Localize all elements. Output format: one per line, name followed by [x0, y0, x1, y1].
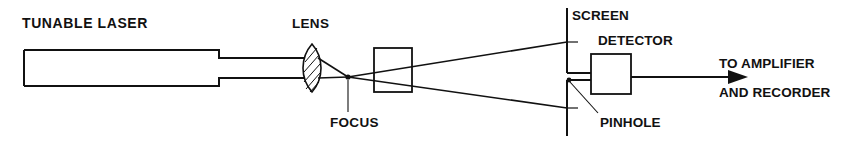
converging-beam	[318, 58, 348, 78]
output-destination-line1: TO AMPLIFIER	[719, 56, 815, 71]
screen-aperture	[567, 8, 591, 136]
output-destination-line2: AND RECORDER	[719, 85, 831, 100]
detector-box	[591, 54, 631, 94]
optical-setup-diagram: TUNABLE LASER LENS FOCUS	[0, 0, 846, 143]
focus-label: FOCUS	[330, 115, 379, 130]
screen-label: SCREEN	[572, 8, 629, 23]
diverging-beam	[348, 42, 567, 108]
tunable-laser-body	[24, 50, 305, 86]
tunable-laser-label: TUNABLE LASER	[22, 15, 148, 31]
optical-schematic-figure: TUNABLE LASER LENS FOCUS	[0, 0, 846, 143]
lens-element	[303, 44, 321, 92]
lens-label: LENS	[292, 16, 329, 31]
output-signal-arrow	[631, 70, 748, 84]
detector-label: DETECTOR	[598, 33, 673, 48]
focus-marker	[345, 74, 350, 112]
pinhole-label: PINHOLE	[600, 115, 661, 130]
